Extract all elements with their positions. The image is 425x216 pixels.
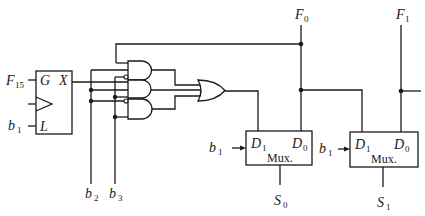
mux-0-select-label: b	[209, 140, 216, 155]
s1-label: S	[377, 195, 384, 210]
mux-1-select-subscript: 1	[328, 148, 333, 158]
s1-subscript: 1	[386, 202, 391, 212]
or-to-mux1-d1-wire	[225, 91, 258, 131]
and-gates	[124, 61, 152, 119]
or-gate	[198, 80, 225, 101]
f1-label: F	[395, 7, 405, 22]
mux-1-select-label: b	[319, 141, 326, 156]
f0-feedback-wire	[116, 44, 301, 63]
mux-0: D 1 D 0 Mux. b 1 S 0	[209, 131, 312, 210]
f1-subscript: 1	[405, 14, 410, 24]
logic-circuit-diagram: G L X F 15 b 1 b 2 b 3	[0, 0, 425, 216]
select-lines: b 2 b 3	[85, 70, 128, 203]
and-gate-2	[128, 80, 151, 98]
mux-0-label: Mux.	[267, 151, 293, 165]
b3-subscript: 3	[118, 193, 123, 203]
s0-subscript: 0	[283, 200, 288, 210]
junction-dot	[89, 88, 93, 92]
f0-subscript: 0	[304, 14, 309, 24]
arrow-right-icon	[240, 146, 246, 151]
and3-to-or-wire	[152, 96, 200, 109]
b1-subscript: 1	[17, 125, 22, 135]
junction-dot	[89, 99, 93, 103]
mux-0-select-subscript: 1	[218, 147, 223, 157]
s0-label: S	[274, 193, 281, 208]
mux-1-d0-subscript: 0	[405, 144, 410, 154]
b2-label: b	[85, 186, 92, 201]
junction-dot	[113, 115, 117, 119]
mux-1-d1-subscript: 1	[366, 144, 371, 154]
f1-output: F 1	[395, 7, 421, 132]
latch: G L X F 15 b 1	[5, 71, 72, 135]
latch-x-label: X	[58, 73, 68, 88]
junction-dot	[113, 95, 117, 99]
junction-dot	[299, 42, 304, 47]
b1-label: b	[8, 118, 15, 133]
f15-subscript: 15	[15, 80, 25, 90]
and-gate-3	[128, 99, 152, 119]
and-gate-1	[128, 61, 152, 80]
mux-0-d0-label: D	[291, 136, 302, 151]
f15-label: F	[5, 73, 15, 88]
mux-1: D 1 D 0 Mux. b 1 S 1	[319, 132, 418, 212]
latch-g-label: G	[40, 73, 50, 88]
f0-output: F 0	[294, 7, 309, 131]
arrow-right-icon	[344, 147, 350, 152]
mux-1-d0-label: D	[393, 137, 404, 152]
mux-0-d1-subscript: 1	[262, 143, 267, 153]
mux-0-d1-label: D	[250, 136, 261, 151]
f0-label: F	[294, 7, 304, 22]
b3-label: b	[109, 186, 116, 201]
b2-subscript: 2	[94, 193, 99, 203]
f0-to-mux2-d1-wire	[301, 90, 362, 132]
mux-0-d0-subscript: 0	[303, 143, 308, 153]
and1-to-or-wire	[151, 70, 200, 85]
latch-l-label: L	[39, 119, 48, 134]
inverter-bubble-icon	[124, 99, 128, 103]
inverter-bubble-icon	[124, 75, 128, 79]
mux-1-label: Mux.	[371, 152, 397, 166]
mux-1-d1-label: D	[354, 137, 365, 152]
